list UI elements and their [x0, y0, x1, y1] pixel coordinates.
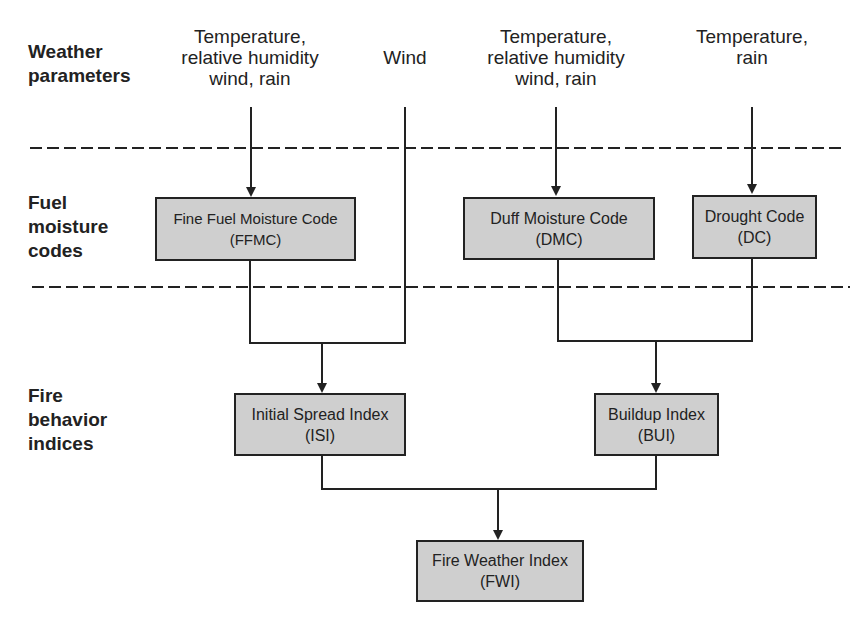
box-isi-abbr: (ISI) [305, 425, 335, 446]
box-ffmc-abbr: (FFMC) [230, 229, 282, 250]
box-isi: Initial Spread Index (ISI) [234, 393, 406, 456]
param-dc-inputs: Temperature, rain [682, 26, 822, 68]
row-label-fuel-moisture-codes: Fuel moisture codes [28, 191, 108, 263]
box-dmc-name: Duff Moisture Code [490, 208, 628, 229]
box-dmc-abbr: (DMC) [535, 229, 582, 250]
box-fwi: Fire Weather Index (FWI) [416, 540, 584, 602]
connector-lines [0, 0, 867, 630]
box-ffmc: Fine Fuel Moisture Code (FFMC) [155, 197, 356, 261]
row-label-weather-parameters: Weather parameters [28, 40, 130, 88]
box-dc-name: Drought Code [705, 206, 805, 227]
param-ffmc-inputs: Temperature, relative humidity wind, rai… [160, 26, 340, 89]
box-fwi-abbr: (FWI) [480, 571, 520, 592]
row-label-fire-behavior-indices: Fire behavior indices [28, 384, 107, 456]
box-dmc: Duff Moisture Code (DMC) [463, 197, 655, 260]
box-fwi-name: Fire Weather Index [432, 550, 568, 571]
param-dmc-inputs: Temperature, relative humidity wind, rai… [466, 26, 646, 89]
box-bui-name: Buildup Index [608, 404, 705, 425]
box-ffmc-name: Fine Fuel Moisture Code [173, 208, 337, 229]
param-wind: Wind [370, 47, 440, 68]
box-bui-abbr: (BUI) [638, 425, 675, 446]
box-bui: Buildup Index (BUI) [594, 393, 719, 456]
box-dc-abbr: (DC) [738, 227, 772, 248]
box-dc: Drought Code (DC) [692, 195, 817, 259]
box-isi-name: Initial Spread Index [252, 404, 389, 425]
